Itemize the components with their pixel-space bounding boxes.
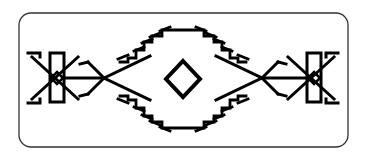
upper-stepped-band-icon: [118, 27, 248, 62]
right-motif-icon: [216, 53, 338, 103]
lower-stepped-band-icon: [118, 96, 248, 131]
motif-figure: [0, 0, 366, 160]
left-motif-icon: [28, 53, 150, 103]
center-diamond-icon: [166, 61, 200, 97]
